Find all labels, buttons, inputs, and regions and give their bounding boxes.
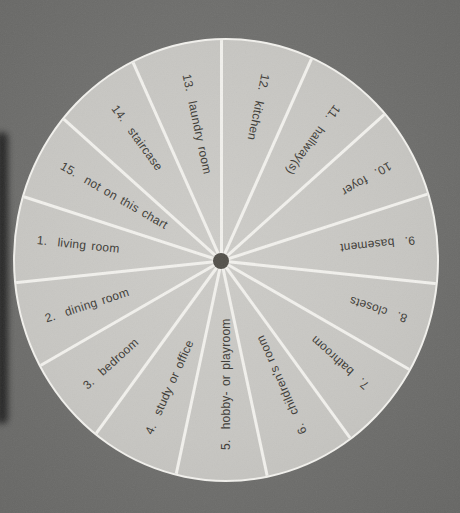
sector-divider-line	[220, 105, 394, 262]
sector-divider-line	[220, 38, 223, 261]
sector-label: 15. not on this chart	[58, 159, 170, 232]
sector-label: 13. laundry room	[180, 73, 215, 176]
book-gutter-shadow	[0, 132, 8, 424]
sector-divider-line	[126, 48, 223, 261]
sector-label: 11. hallway(s)	[283, 102, 343, 178]
sector-divider-line	[221, 188, 439, 263]
sector-divider-line	[48, 105, 222, 262]
sector-label: 1. living room	[36, 233, 120, 256]
room-wheel-chart: 1. living room2. dining room3. bedroom4.…	[13, 38, 439, 482]
sector-divider-line	[220, 48, 317, 261]
page-background: 1. living room2. dining room3. bedroom4.…	[0, 0, 460, 513]
sector-divider-line	[13, 188, 222, 263]
sector-label: 10. foyer	[339, 159, 394, 199]
sector-divider-line	[13, 260, 222, 287]
sector-divider-line	[221, 260, 439, 287]
sector-label: 12. kitchen	[245, 73, 273, 142]
sector-label: 6. children's room	[253, 333, 309, 436]
sector-label: 9. basement	[339, 233, 415, 255]
hub-dot	[213, 253, 229, 269]
sector-label: 5. hobby- or playroom	[219, 318, 233, 450]
sector-label: 8. closets	[348, 294, 409, 326]
